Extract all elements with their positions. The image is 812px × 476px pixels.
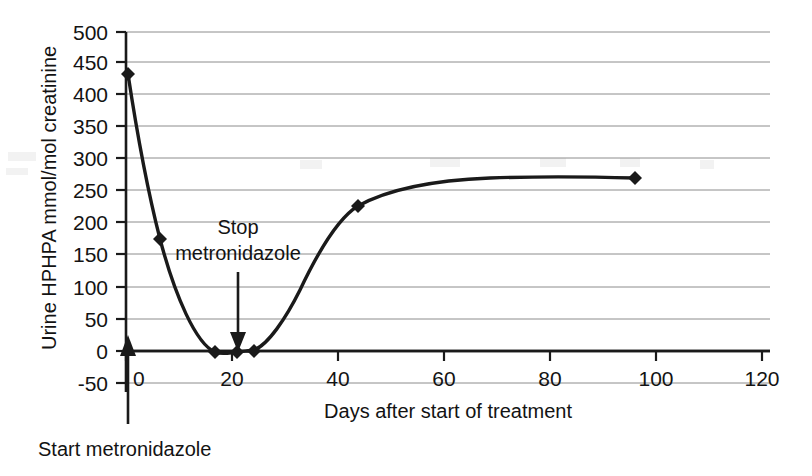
y-tick-label-450: 450 bbox=[73, 51, 108, 74]
stop-metronidazole-label-line2: metronidazole bbox=[175, 242, 301, 264]
x-tick-label-0: 0 bbox=[133, 367, 145, 390]
y-axis-title: Urine HPHPA mmol/mol creatinine bbox=[38, 46, 60, 350]
data-point-day-96 bbox=[628, 171, 642, 185]
y-tick-label-minus50: -50 bbox=[78, 372, 108, 395]
start-metronidazole-caption: Start metronidazole bbox=[38, 438, 211, 460]
y-tick-label-400: 400 bbox=[73, 83, 108, 106]
data-point-day-6 bbox=[153, 232, 167, 246]
data-line-urine-hphpa bbox=[128, 74, 635, 354]
stop-metronidazole-arrow bbox=[230, 272, 246, 352]
y-tick-label-500: 500 bbox=[73, 21, 108, 44]
x-axis-title: Days after start of treatment bbox=[324, 400, 572, 422]
y-tick-label-350: 350 bbox=[73, 115, 108, 138]
x-tick-label-100: 100 bbox=[638, 367, 673, 390]
data-markers bbox=[121, 67, 642, 359]
data-point-day-0 bbox=[121, 67, 135, 81]
x-tick-label-40: 40 bbox=[326, 367, 349, 390]
x-tick-label-80: 80 bbox=[538, 367, 561, 390]
x-tick-label-20: 20 bbox=[220, 367, 243, 390]
y-tick-label-300: 300 bbox=[73, 147, 108, 170]
y-tick-label-50: 50 bbox=[85, 308, 108, 331]
y-tick-label-200: 200 bbox=[73, 211, 108, 234]
stop-metronidazole-label-line1: Stop bbox=[217, 216, 258, 238]
y-tick-label-0: 0 bbox=[96, 340, 108, 363]
chart-figure: 500 450 400 350 300 250 200 150 100 50 0… bbox=[0, 0, 812, 476]
y-axis-ticks bbox=[116, 32, 126, 383]
chart-svg: 500 450 400 350 300 250 200 150 100 50 0… bbox=[0, 0, 812, 476]
x-tick-label-120: 120 bbox=[744, 367, 779, 390]
y-tick-label-250: 250 bbox=[73, 179, 108, 202]
y-tick-label-150: 150 bbox=[73, 243, 108, 266]
y-tick-label-100: 100 bbox=[73, 276, 108, 299]
x-tick-label-60: 60 bbox=[432, 367, 455, 390]
grid-lines bbox=[126, 32, 770, 383]
